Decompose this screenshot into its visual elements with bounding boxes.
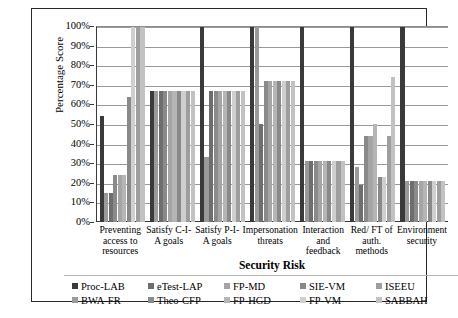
bar <box>268 81 272 222</box>
bar <box>378 177 382 222</box>
bar <box>350 26 354 222</box>
bar <box>172 91 176 222</box>
bar <box>100 116 104 222</box>
legend-label: FP-VM <box>309 295 341 306</box>
legend-swatch-icon <box>376 283 382 289</box>
legend-label: Proc-LAB <box>81 281 125 292</box>
legend-label: BWA-FR <box>81 295 121 306</box>
bar <box>127 97 131 222</box>
bar <box>122 175 126 222</box>
bar <box>232 91 236 222</box>
bar <box>223 91 227 222</box>
bar <box>140 26 144 222</box>
chart-border: 0%10%20%30%40%50%60%70%80%90%100% Percen… <box>31 8 427 302</box>
y-tick-mark <box>90 85 94 86</box>
bar <box>423 181 427 222</box>
bar <box>154 91 158 222</box>
bar <box>405 181 409 222</box>
legend-item[interactable]: FP-HGD <box>224 295 300 306</box>
bar <box>181 91 185 222</box>
y-tick-label: 70% <box>71 80 90 90</box>
bar <box>410 181 414 222</box>
bar <box>218 91 222 222</box>
bar <box>437 181 441 222</box>
bar <box>318 161 322 222</box>
y-tick-label: 80% <box>71 60 90 70</box>
bar <box>355 167 359 222</box>
bar <box>400 26 404 222</box>
bar <box>368 136 372 222</box>
bar <box>327 161 331 222</box>
bar <box>204 157 208 222</box>
legend-swatch-icon <box>376 297 382 303</box>
legend-swatch-icon <box>224 297 230 303</box>
y-tick-label: 50% <box>71 119 90 129</box>
legend-item[interactable]: FP-MD <box>224 281 300 292</box>
bar <box>227 91 231 222</box>
bar <box>113 175 117 222</box>
legend-swatch-icon <box>72 283 78 289</box>
bar <box>359 185 363 222</box>
legend-label: Theo-CFP <box>157 295 201 306</box>
bar <box>109 193 113 222</box>
bar-group <box>398 27 448 222</box>
y-tick-mark <box>90 124 94 125</box>
y-tick-label: 60% <box>71 99 90 109</box>
y-tick-mark <box>90 163 94 164</box>
bar <box>200 26 204 222</box>
bar-group <box>147 27 197 222</box>
legend-label: FP-HGD <box>233 295 271 306</box>
plot-area <box>96 26 448 222</box>
bar <box>104 193 108 222</box>
y-tick-label: 100% <box>66 21 91 31</box>
legend-item[interactable]: BWA-FR <box>72 295 148 306</box>
legend-item[interactable]: SABBAH <box>376 295 452 306</box>
y-tick-mark <box>90 183 94 184</box>
y-tick-label: 0% <box>76 217 90 227</box>
legend-item[interactable]: ISEEU <box>376 281 452 292</box>
bar <box>309 161 313 222</box>
y-tick-label: 20% <box>71 178 90 188</box>
bar-groups <box>97 27 448 222</box>
legend-label: ISEEU <box>385 281 415 292</box>
y-tick-mark <box>90 46 94 47</box>
bar <box>118 175 122 222</box>
legend-swatch-icon <box>224 283 230 289</box>
bar <box>259 124 263 222</box>
bar <box>159 91 163 222</box>
bar <box>391 77 395 222</box>
legend-item[interactable]: Theo-CFP <box>148 295 224 306</box>
bar <box>300 26 304 222</box>
bar <box>177 91 181 222</box>
legend-item[interactable]: Proc-LAB <box>72 281 148 292</box>
bar <box>323 161 327 222</box>
bar <box>186 91 190 222</box>
bar <box>336 161 340 222</box>
chart-legend: Proc-LABBWA-FReTest-LAPTheo-CFPFP-MDFP-H… <box>72 279 452 307</box>
y-tick-label: 30% <box>71 158 90 168</box>
bar <box>341 161 345 222</box>
legend-item[interactable]: SIE-VM <box>300 281 376 292</box>
x-axis-title: Security Risk <box>96 259 448 271</box>
legend-label: eTest-LAP <box>157 281 202 292</box>
bar <box>286 81 290 222</box>
bar <box>236 91 240 222</box>
legend-swatch-icon <box>300 283 306 289</box>
bar <box>364 136 368 222</box>
bar <box>291 81 295 222</box>
y-tick-mark <box>90 26 94 27</box>
y-tick-mark <box>90 104 94 105</box>
bar <box>163 91 167 222</box>
bar <box>373 124 377 222</box>
bar <box>277 81 281 222</box>
legend-swatch-icon <box>300 297 306 303</box>
legend-item[interactable]: FP-VM <box>300 295 376 306</box>
bar <box>255 26 259 222</box>
bar <box>150 91 154 222</box>
y-axis-title: Percentage Score <box>53 0 65 160</box>
bar <box>305 161 309 222</box>
legend-item[interactable]: eTest-LAP <box>148 281 224 292</box>
legend-label: FP-MD <box>233 281 265 292</box>
legend-label: SABBAH <box>385 295 428 306</box>
bar <box>131 26 135 222</box>
